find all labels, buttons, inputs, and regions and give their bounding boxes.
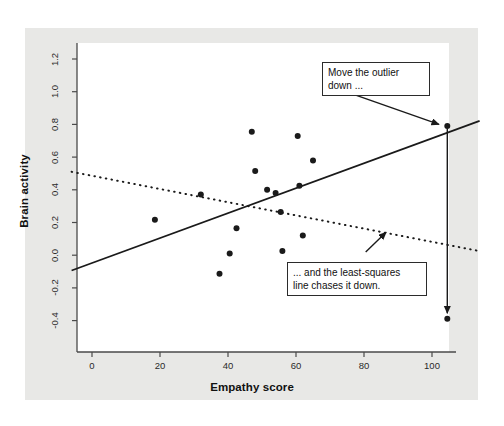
callout-move-outlier-line1: Move the outlier xyxy=(328,66,424,79)
data-point xyxy=(310,157,316,163)
y-tick-label: 1.0 xyxy=(49,77,60,107)
x-tick-label: 80 xyxy=(349,360,379,371)
dotted-regression-line xyxy=(72,172,480,251)
callout-least-squares-line1: ... and the least-squares xyxy=(293,266,421,279)
callout-least-squares: ... and the least-squares line chases it… xyxy=(287,262,427,296)
y-tick-label: -0.4 xyxy=(49,306,60,336)
y-tick-label: 0.2 xyxy=(49,208,60,238)
data-point xyxy=(273,190,279,196)
x-tick-marks xyxy=(92,352,432,357)
x-tick-label: 40 xyxy=(213,360,243,371)
outlier-point-original xyxy=(444,123,450,129)
y-tick-label: 0.8 xyxy=(49,110,60,140)
x-tick-label: 60 xyxy=(281,360,311,371)
figure-container: 0 20 40 60 80 100 -0.4 -0.2 0.0 0.2 0.4 … xyxy=(0,0,504,426)
data-point xyxy=(279,248,285,254)
x-tick-label: 100 xyxy=(417,360,447,371)
y-tick-label: 0.6 xyxy=(49,143,60,173)
data-point xyxy=(295,133,301,139)
data-point xyxy=(278,209,284,215)
callout-least-squares-line2: line chases it down. xyxy=(293,279,421,292)
data-point xyxy=(296,183,302,189)
callout-move-outlier: Move the outlier down ... xyxy=(322,62,430,96)
data-point xyxy=(152,217,158,223)
x-tick-label: 0 xyxy=(77,360,107,371)
y-axis-title: Brain activity xyxy=(18,121,30,261)
data-point xyxy=(198,192,204,198)
data-point xyxy=(249,129,255,135)
y-tick-marks xyxy=(72,59,77,321)
y-tick-label: 0.4 xyxy=(49,175,60,205)
data-point xyxy=(217,271,223,277)
outlier-point-moved xyxy=(444,316,450,322)
y-tick-label: -0.2 xyxy=(49,273,60,303)
data-point xyxy=(300,233,306,239)
data-point xyxy=(252,168,258,174)
y-tick-label: 1.2 xyxy=(49,45,60,75)
y-tick-label: 0.0 xyxy=(49,241,60,271)
least-squares-callout-arrow xyxy=(366,232,386,252)
data-point xyxy=(227,251,233,257)
data-point xyxy=(264,187,270,193)
callout-move-outlier-line2: down ... xyxy=(328,79,424,92)
data-point xyxy=(234,225,240,231)
x-axis-title: Empathy score xyxy=(0,381,504,393)
x-tick-label: 20 xyxy=(145,360,175,371)
